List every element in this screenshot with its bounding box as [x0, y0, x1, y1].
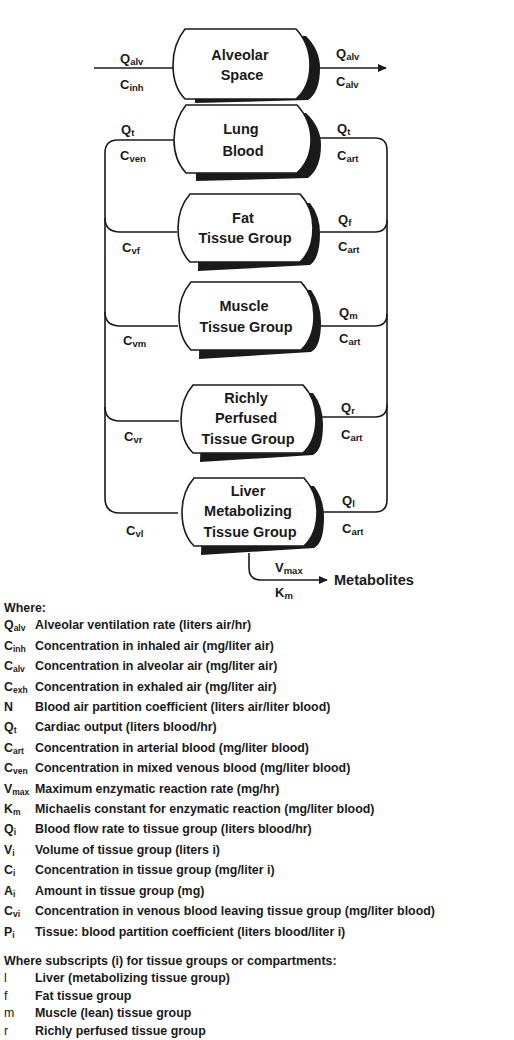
label-q-m: Qm: [339, 305, 358, 321]
label-c-art-lung: Cart: [337, 148, 359, 164]
legend-row: CexhConcentration in exhaled air (mg/lit…: [4, 679, 514, 699]
legend-symbol: Qi: [4, 821, 35, 841]
legend-row: CalvConcentration in alveolar air (mg/li…: [4, 658, 514, 678]
label-c-vf: Cvf: [122, 240, 141, 256]
legend-description: Concentration in alveolar air (mg/liter …: [35, 658, 277, 678]
legend-symbol: Cinh: [4, 638, 35, 658]
legend-symbol: Cven: [4, 760, 35, 780]
legend-symbol: Pi: [4, 924, 35, 944]
label-c-art-muscle: Cart: [339, 331, 361, 347]
subscript-row: lLiver (metabolizing tissue group): [4, 970, 514, 987]
label-km: Km: [275, 585, 293, 600]
legend: Where: QalvAlveolar ventilation rate (li…: [4, 600, 514, 1040]
legend-symbol: Vi: [4, 842, 35, 862]
legend-row: CvenConcentration in mixed venous blood …: [4, 760, 514, 780]
legend-row: QiBlood flow rate to tissue group (liter…: [4, 821, 514, 841]
legend-row: CartConcentration in arterial blood (mg/…: [4, 740, 514, 760]
legend-row: QtCardiac output (liters blood/hr): [4, 719, 514, 739]
legend-description: Maximum enzymatic reaction rate (mg/hr): [35, 781, 279, 801]
legend-symbol: Cart: [4, 740, 35, 760]
legend-description: Blood air partition coefficient (liters …: [35, 699, 330, 719]
legend-description: Concentration in inhaled air (mg/liter a…: [35, 638, 274, 658]
subscript-symbol: l: [4, 970, 35, 987]
compartment-alveolar-space: [173, 29, 320, 103]
legend-symbol: Vmax: [4, 781, 35, 801]
legend-symbol: Cvi: [4, 903, 35, 923]
subscript-description: Fat tissue group: [35, 988, 131, 1005]
legend-description: Concentration in exhaled air (mg/liter a…: [35, 679, 277, 699]
label-q-t-in: Qt: [121, 122, 135, 138]
subscript-description: Muscle (lean) tissue group: [35, 1005, 191, 1022]
label-c-vl: Cvl: [126, 523, 143, 539]
legend-symbol: Cexh: [4, 679, 35, 699]
legend-description: Alveolar ventilation rate (liters air/hr…: [35, 617, 251, 637]
legend-header: Where:: [4, 600, 514, 617]
label-vmax: Vmax: [275, 560, 303, 576]
label-c-inh: Cinh: [120, 77, 144, 93]
label-c-ven: Cven: [120, 148, 146, 164]
legend-symbol: Calv: [4, 658, 35, 678]
legend-description: Concentration in venous blood leaving ti…: [35, 903, 435, 923]
label-q-alv-in: Qalv: [120, 51, 144, 67]
label-c-art-liver: Cart: [342, 521, 364, 537]
legend-row: QalvAlveolar ventilation rate (liters ai…: [4, 617, 514, 637]
label-q-l: Ql: [342, 493, 355, 509]
label-c-art-richly: Cart: [341, 427, 363, 443]
subscript-symbol: r: [4, 1023, 35, 1040]
legend-description: Concentration in mixed venous blood (mg/…: [35, 760, 350, 780]
legend-symbol: N: [4, 699, 35, 719]
legend-symbol: Km: [4, 801, 35, 821]
legend-description: Michaelis constant for enzymatic reactio…: [35, 801, 374, 821]
legend-symbol: Ai: [4, 883, 35, 903]
label-q-r: Qr: [341, 400, 355, 416]
subscript-description: Richly perfused tissue group: [35, 1023, 206, 1040]
label-metabolites: Metabolites: [334, 572, 414, 588]
legend-row: CviConcentration in venous blood leaving…: [4, 903, 514, 923]
legend-symbol: Qt: [4, 719, 35, 739]
legend-symbol: Ci: [4, 862, 35, 882]
legend-row: ViVolume of tissue group (liters i): [4, 842, 514, 862]
legend-description: Cardiac output (liters blood/hr): [35, 719, 217, 739]
legend-row: AiAmount in tissue group (mg): [4, 883, 514, 903]
legend-symbol: Qalv: [4, 617, 35, 637]
legend-description: Volume of tissue group (liters i): [35, 842, 220, 862]
legend-description: Blood flow rate to tissue group (liters …: [35, 821, 312, 841]
legend-description: Tissue: blood partition coefficient (lit…: [35, 924, 345, 944]
legend-row: CinhConcentration in inhaled air (mg/lit…: [4, 638, 514, 658]
legend-row: PiTissue: blood partition coefficient (l…: [4, 924, 514, 944]
legend-row: NBlood air partition coefficient (liters…: [4, 699, 514, 719]
subscript-row: mMuscle (lean) tissue group: [4, 1005, 514, 1022]
legend-row: CiConcentration in tissue group (mg/lite…: [4, 862, 514, 882]
label-q-t-out: Qt: [337, 121, 351, 137]
legend-description: Concentration in arterial blood (mg/lite…: [35, 740, 309, 760]
legend-description: Amount in tissue group (mg): [35, 883, 204, 903]
label-q-f: Qf: [338, 212, 352, 228]
label-c-vm: Cvm: [123, 333, 146, 349]
legend-description: Concentration in tissue group (mg/liter …: [35, 862, 275, 882]
legend-row: VmaxMaximum enzymatic reaction rate (mg/…: [4, 781, 514, 801]
label-c-alv: Calv: [336, 74, 359, 90]
subscript-row: fFat tissue group: [4, 988, 514, 1005]
label-q-alv-out: Qalv: [336, 46, 360, 62]
subscript-symbol: f: [4, 988, 35, 1005]
subscript-description: Liver (metabolizing tissue group): [35, 970, 230, 987]
subscripts-header: Where subscripts (i) for tissue groups o…: [4, 953, 514, 970]
label-c-vr: Cvr: [124, 429, 143, 445]
legend-row: KmMichaelis constant for enzymatic react…: [4, 801, 514, 821]
pbpk-diagram: Alveolar Space Lung Blood Fat Tissue Gro…: [0, 0, 514, 600]
subscript-symbol: m: [4, 1005, 35, 1022]
label-c-art-fat: Cart: [338, 239, 360, 255]
arterial-supply-line: [312, 138, 387, 512]
subscript-row: rRichly perfused tissue group: [4, 1023, 514, 1040]
